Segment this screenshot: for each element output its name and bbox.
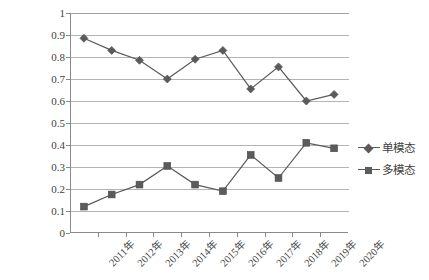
data-point-square[interactable] <box>81 203 88 210</box>
data-point-square[interactable] <box>192 181 199 188</box>
data-point-diamond[interactable] <box>219 46 227 54</box>
square-marker-icon <box>358 164 380 176</box>
series-line <box>84 143 334 207</box>
data-point-square[interactable] <box>247 152 254 159</box>
data-point-diamond[interactable] <box>191 55 199 63</box>
legend-item-multi-modal[interactable]: 多模态 <box>358 159 428 181</box>
diamond-marker-icon <box>358 142 380 154</box>
data-point-square[interactable] <box>164 163 171 170</box>
data-point-square[interactable] <box>220 188 227 195</box>
data-point-square[interactable] <box>275 175 282 182</box>
series-line <box>84 38 334 101</box>
line-chart: 10.90.80.70.60.50.40.30.20.10 2011年2012年… <box>0 0 429 280</box>
data-point-diamond[interactable] <box>330 90 338 98</box>
data-point-diamond[interactable] <box>80 34 88 42</box>
legend-item-single-modal[interactable]: 单模态 <box>358 137 428 159</box>
data-point-square[interactable] <box>108 191 115 198</box>
data-point-square[interactable] <box>331 145 338 152</box>
data-point-square[interactable] <box>136 181 143 188</box>
legend-item-label: 单模态 <box>380 142 415 154</box>
data-point-diamond[interactable] <box>136 56 144 64</box>
chart-legend: 单模态 多模态 <box>358 137 428 181</box>
data-point-square[interactable] <box>303 139 310 146</box>
data-point-diamond[interactable] <box>108 46 116 54</box>
legend-item-label: 多模态 <box>380 164 415 176</box>
data-point-diamond[interactable] <box>163 75 171 83</box>
